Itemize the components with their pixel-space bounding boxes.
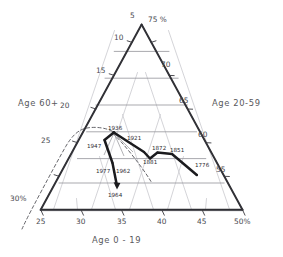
tick-bottom-0: 25 (36, 217, 46, 226)
point-label-1851: 1851 (170, 147, 185, 153)
point-label-1936: 1936 (108, 125, 123, 131)
ternary-chart-figure: Age 60+ Age 20-59 Age 0 - 19 25 30 35 40… (0, 0, 283, 257)
tick-bottom-1: 30 (76, 217, 86, 226)
tick-bottom-2: 35 (117, 217, 127, 226)
tick-right-4: 55 (216, 165, 226, 174)
point-label-1776: 1776 (195, 162, 210, 168)
tick-bottom-3: 40 (157, 217, 167, 226)
point-label-1964: 1964 (108, 192, 123, 198)
axis-title-right: Age 20-59 (212, 98, 261, 108)
point-label-1977: 1977 (96, 168, 111, 174)
trajectory-arrowhead (114, 182, 121, 189)
tick-bottom-5: 50% (234, 217, 250, 226)
tick-left-1: 10 (114, 33, 124, 42)
point-label-1921: 1921 (127, 135, 142, 141)
point-label-1881: 1881 (143, 159, 158, 165)
tick-left-5: 30% (10, 194, 26, 203)
axis-title-left: Age 60+ (18, 98, 59, 108)
tick-bottom-4: 45 (197, 217, 207, 226)
tick-right-2: 65 (179, 96, 189, 105)
point-label-1947: 1947 (87, 143, 102, 149)
tick-left-0: 5 (130, 11, 135, 20)
point-label-1962: 1962 (116, 168, 130, 174)
point-label-1872: 1872 (152, 145, 166, 151)
tick-right-0: 75 % (148, 15, 167, 24)
ternary-plot-svg: Age 60+ Age 20-59 Age 0 - 19 25 30 35 40… (0, 0, 283, 257)
axis-title-bottom: Age 0 - 19 (92, 235, 141, 245)
tick-marks (41, 41, 245, 215)
tick-right-3: 60 (198, 130, 208, 139)
triangle-outline (41, 25, 243, 210)
tick-left-4: 25 (41, 136, 51, 145)
tick-right-1: 70 (161, 60, 171, 69)
tick-left-2: 15 (96, 66, 106, 75)
tick-left-3: 20 (60, 101, 70, 110)
